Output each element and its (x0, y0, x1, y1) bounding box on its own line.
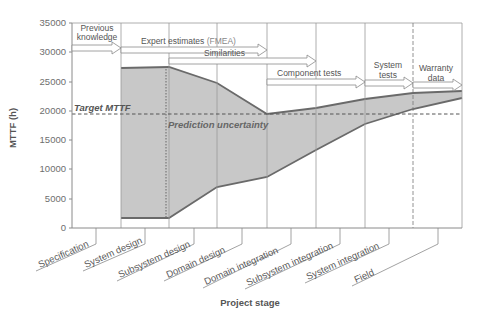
previous-knowledge-arrow (72, 42, 121, 54)
y-tick-20000: 20000 (40, 105, 66, 116)
warranty-data-label-2: data (428, 73, 445, 83)
y-axis-title: MTTF (h) (7, 108, 18, 148)
y-tick-35000: 35000 (40, 17, 66, 28)
stage-label-field: Field (352, 266, 375, 284)
expert-estimates-label: Expert estimates (FMEA) (141, 36, 236, 46)
y-tick-5000: 5000 (45, 193, 66, 204)
previous-knowledge-label-2: knowledge (77, 32, 118, 42)
y-tick-10000: 10000 (40, 163, 66, 174)
y-tick-15000: 15000 (40, 134, 66, 145)
target-mttf-label: Target MTTF (74, 102, 131, 113)
y-tick-0: 0 (61, 222, 66, 233)
prediction-uncertainty-band (121, 67, 462, 218)
stage-label-specification: Specification (36, 238, 90, 270)
similarities-label: Similarities (204, 48, 245, 58)
x-axis: Specification System design Subsystem de… (36, 228, 462, 308)
x-axis-title: Project stage (220, 297, 280, 308)
y-tick-25000: 25000 (40, 76, 66, 87)
warranty-data-label-1: Warranty (419, 63, 454, 73)
y-axis: 0 5000 10000 15000 20000 25000 30000 350… (7, 17, 72, 233)
component-tests-label: Component tests (277, 68, 341, 78)
prediction-uncertainty-label: Prediction uncertainty (168, 119, 269, 130)
y-tick-30000: 30000 (40, 46, 66, 57)
system-tests-label-1: System (374, 60, 402, 70)
system-tests-label-2: tests (379, 70, 397, 80)
mttf-chart: Target MTTF Prediction uncertainty 0 500… (0, 0, 484, 322)
